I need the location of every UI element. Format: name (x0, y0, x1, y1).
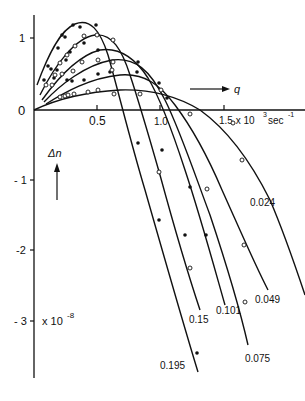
curve-label-0024: 0.024 (250, 197, 275, 208)
curve-label-0049: 0.049 (255, 294, 280, 305)
y-tick-m1: - 1 (14, 174, 27, 186)
curve-0075 (44, 60, 248, 345)
y-axis-label: Δn (47, 147, 62, 159)
curve-0024 (34, 90, 305, 295)
curve-015 (40, 35, 200, 310)
x-tick-05: 0.5 (89, 114, 106, 128)
y-tick-0: 0 (18, 103, 25, 118)
y-tick-1: 1 (19, 32, 25, 44)
x-ticks (97, 105, 224, 110)
curve-label-015: 0.15 (189, 314, 209, 325)
curve-label-0075: 0.075 (245, 353, 270, 364)
x-axis-label: q (234, 83, 241, 95)
chart-canvas: 1 0 - 1 -2 - 3 x 10 -8 0.5 1.0 1.5 x 10 … (0, 0, 305, 401)
curve-0049 (46, 75, 268, 290)
x-unit-exp: 3 (263, 111, 267, 118)
y-unit: x 10 (42, 315, 63, 327)
curve-label-0101: 0.101 (216, 305, 241, 316)
y-tick-m2: -2 (16, 244, 26, 256)
x-unit-tail: sec (268, 115, 284, 126)
q-arrow-head (222, 86, 230, 92)
dn-arrow-head (54, 163, 60, 172)
curve-label-0195: 0.195 (160, 360, 185, 371)
y-tick-m3: - 3 (14, 315, 27, 327)
y-unit-exp: -8 (67, 311, 75, 320)
x-tick-15: 1.5 x 10 (219, 115, 255, 126)
x-unit-tail-exp: -1 (288, 111, 294, 118)
data-points-filled (42, 23, 208, 355)
